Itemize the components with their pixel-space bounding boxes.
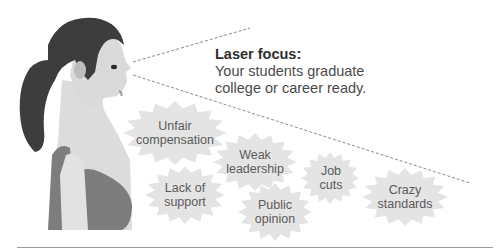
burst-label-line: support	[164, 195, 206, 209]
woman-figure	[20, 18, 132, 230]
burst-label-line: Unfair	[136, 119, 214, 133]
burst-label-line: leadership	[226, 162, 284, 176]
burst-label-public-opinion: Public opinion	[255, 198, 295, 226]
illustration: Laser focus: Your students graduate coll…	[0, 0, 498, 249]
headline-line-1: Your students graduate	[215, 63, 366, 80]
burst-label-line: Crazy	[378, 183, 433, 197]
burst-label-lack-of-support: Lack of support	[164, 181, 206, 209]
burst-label-line: standards	[378, 197, 433, 211]
headline-title: Laser focus:	[215, 46, 301, 62]
burst-label-unfair-compensation: Unfair compensation	[136, 119, 214, 147]
burst-label-crazy-standards: Crazy standards	[378, 183, 433, 211]
burst-label-line: Weak	[226, 148, 284, 162]
headline-block: Laser focus: Your students graduate coll…	[215, 46, 366, 97]
bottom-divider	[17, 247, 493, 248]
headline-line-2: college or career ready.	[215, 80, 366, 97]
burst-label-line: Job	[320, 164, 343, 178]
burst-label-line: compensation	[136, 133, 214, 147]
burst-label-line: cuts	[320, 178, 343, 192]
burst-label-job-cuts: Job cuts	[320, 164, 343, 192]
burst-label-line: opinion	[255, 212, 295, 226]
burst-label-weak-leadership: Weak leadership	[226, 148, 284, 176]
illustration-svg	[0, 0, 498, 249]
burst-label-line: Public	[255, 198, 295, 212]
burst-label-line: Lack of	[164, 181, 206, 195]
